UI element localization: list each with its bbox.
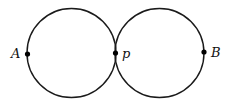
label-b: B	[210, 45, 221, 60]
point-a	[25, 51, 30, 56]
left-circle	[27, 9, 116, 98]
point-b	[201, 49, 206, 54]
label-a: A	[10, 46, 20, 61]
tangent-circles-diagram: A p B	[0, 0, 227, 107]
label-p: p	[122, 46, 131, 61]
point-p	[113, 50, 118, 55]
